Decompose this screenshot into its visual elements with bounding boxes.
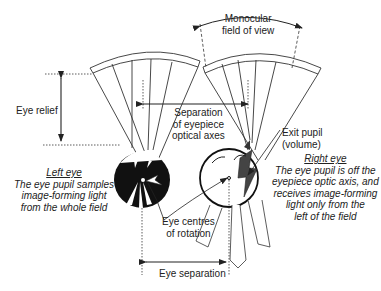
label-line: receives image-forming xyxy=(272,188,379,200)
label-line: Exit pupil xyxy=(282,127,323,139)
right-eye-caption: Right eye The eye pupil is off the eyepi… xyxy=(272,153,379,222)
label-line: Eye centres xyxy=(162,216,215,228)
label-line: optical axes xyxy=(172,130,225,142)
eye-centres-label: Eye centres of rotation xyxy=(162,216,215,239)
eye-separation-label: Eye separation xyxy=(159,268,226,280)
label-line: from the whole field xyxy=(14,202,114,214)
label-line: (volume) xyxy=(282,139,323,151)
eye-relief-label: Eye relief xyxy=(16,105,58,117)
label-line: of eyepiece xyxy=(172,119,225,131)
label-line: eyepiece optic axis, and xyxy=(272,176,379,188)
exit-pupil-label: Exit pupil (volume) xyxy=(282,127,323,150)
label-line: Monocular xyxy=(222,13,274,25)
label-line: The eye pupil is off the xyxy=(272,165,379,177)
label-line: left of the field xyxy=(272,211,379,223)
label-line: image-forming light xyxy=(14,190,114,202)
axes-separation-label: Separation of eyepiece optical axes xyxy=(172,107,225,142)
optics-diagram xyxy=(0,0,381,291)
left-eye xyxy=(114,151,170,208)
label-line: of rotation xyxy=(162,228,215,240)
monocular-fov-label: Monocular field of view xyxy=(222,13,274,36)
left-eyepiece xyxy=(90,52,200,160)
label-line: field of view xyxy=(222,25,274,37)
right-eye-title: Right eye xyxy=(272,153,379,165)
label-line: Separation xyxy=(172,107,225,119)
label-line: light only from the xyxy=(272,199,379,211)
label-line: The eye pupil samples xyxy=(14,179,114,191)
left-eye-caption: Left eye The eye pupil samples image-for… xyxy=(14,167,114,213)
left-eye-title: Left eye xyxy=(14,167,114,179)
